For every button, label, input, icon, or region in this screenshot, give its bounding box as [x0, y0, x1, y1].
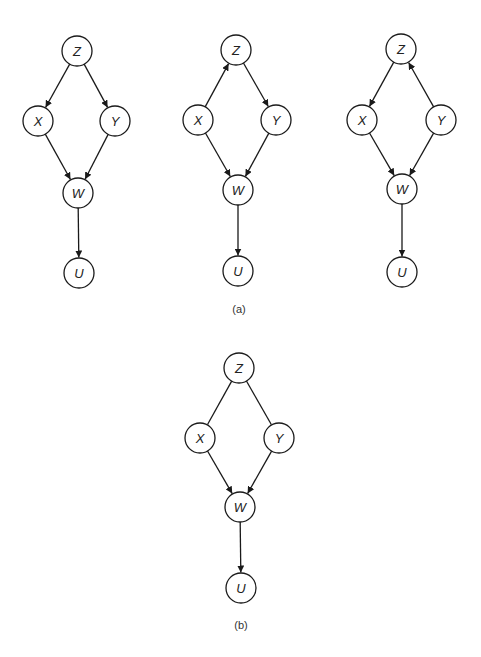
nodes-panel-a2: ZXYWU [183, 35, 291, 286]
graph-panel-a3 [369, 62, 433, 256]
node-label: U [233, 264, 243, 279]
node-x: X [185, 423, 215, 453]
nodes-layer: ZXYWUZXYWUZXYWUZXYWU [23, 34, 456, 603]
node-label: Z [72, 44, 82, 59]
node-y: Y [264, 423, 294, 453]
node-y: Y [100, 106, 130, 136]
edge-x-w-directed [205, 133, 230, 177]
node-label: W [72, 186, 86, 201]
edge-y-w-directed [85, 134, 108, 179]
node-z: Z [224, 353, 254, 383]
node-u: U [226, 573, 256, 603]
caption-a: (a) [232, 303, 245, 315]
edge-z-y-directed [243, 63, 268, 107]
edge-z-y-undirected [246, 381, 271, 425]
edge-w-u-directed [240, 522, 241, 573]
node-label: X [357, 113, 368, 128]
node-label: U [74, 266, 84, 281]
node-z: Z [221, 35, 251, 65]
node-label: U [397, 265, 407, 280]
node-y: Y [426, 105, 456, 135]
node-label: X [193, 113, 204, 128]
node-y: Y [261, 105, 291, 135]
edge-z-y-directed [84, 64, 107, 107]
node-z: Z [62, 36, 92, 66]
node-label: W [396, 182, 410, 197]
node-w: W [387, 174, 417, 204]
graph-panel-a1 [45, 64, 108, 257]
edge-y-z-directed [409, 63, 434, 107]
nodes-panel-b: ZXYWU [185, 353, 294, 603]
node-label: Z [234, 361, 244, 376]
causal-graphs-diagram: ZXYWUZXYWUZXYWUZXYWU (a)(b) [0, 0, 481, 657]
node-w: W [225, 492, 255, 522]
node-u: U [223, 256, 253, 286]
node-label: W [234, 500, 248, 515]
nodes-panel-a1: ZXYWU [23, 36, 130, 288]
node-x: X [347, 105, 377, 135]
node-label: Y [437, 113, 447, 128]
node-label: Y [111, 114, 121, 129]
node-w: W [63, 178, 93, 208]
node-w: W [223, 175, 253, 205]
node-z: Z [386, 34, 416, 64]
node-label: U [236, 581, 246, 596]
graph-panel-a2 [205, 63, 269, 255]
node-label: X [195, 431, 206, 446]
node-x: X [183, 105, 213, 135]
edge-z-x-directed [369, 62, 393, 106]
node-u: U [387, 257, 417, 287]
edge-x-w-directed [45, 134, 70, 179]
node-u: U [64, 258, 94, 288]
edge-z-x-directed [46, 64, 70, 107]
node-x: X [23, 106, 53, 136]
edge-x-z-directed [205, 64, 228, 107]
caption-b: (b) [234, 619, 247, 631]
edge-y-w-directed [245, 133, 268, 176]
edge-y-w-directed [248, 451, 272, 493]
edge-z-x-undirected [208, 381, 232, 424]
node-label: Z [396, 42, 406, 57]
edge-x-w-directed [370, 133, 395, 176]
node-label: Y [275, 431, 285, 446]
node-label: Z [231, 43, 241, 58]
node-label: Y [272, 113, 282, 128]
edge-x-w-directed [208, 451, 233, 494]
edge-y-w-directed [410, 133, 434, 175]
graph-panel-b [208, 381, 272, 572]
node-label: X [33, 114, 44, 129]
node-label: W [232, 183, 246, 198]
edge-w-u-directed [78, 208, 79, 258]
